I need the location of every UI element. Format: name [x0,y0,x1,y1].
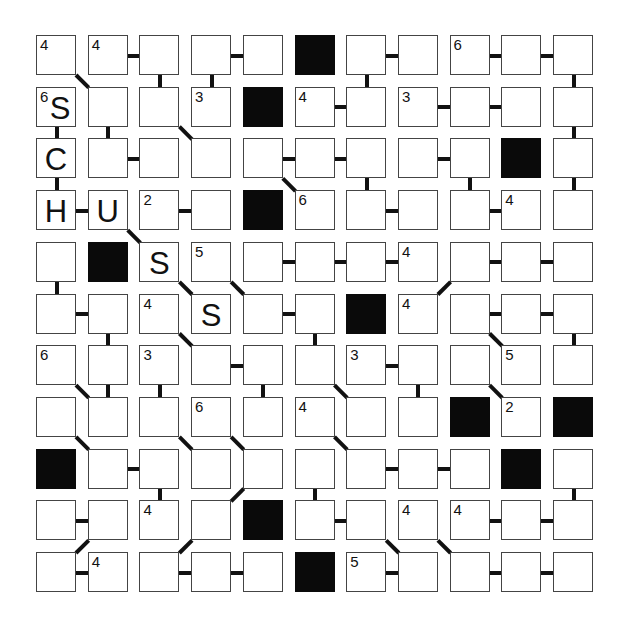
grid-cell[interactable] [191,138,231,178]
grid-cell[interactable] [450,190,490,230]
grid-cell[interactable] [346,242,386,282]
grid-cell[interactable] [139,138,179,178]
grid-cell[interactable] [553,242,593,282]
grid-cell[interactable]: C [36,138,76,178]
grid-cell[interactable] [346,138,386,178]
grid-cell[interactable] [398,190,438,230]
grid-cell[interactable] [191,190,231,230]
grid-cell[interactable]: 4 [398,500,438,540]
grid-cell[interactable]: 4 [398,294,438,334]
grid-cell[interactable] [243,449,283,489]
grid-cell[interactable]: 6S [36,87,76,127]
grid-cell[interactable] [501,294,541,334]
grid-cell[interactable] [346,397,386,437]
grid-cell[interactable] [398,138,438,178]
grid-cell[interactable] [88,87,128,127]
grid-cell[interactable] [36,397,76,437]
grid-cell[interactable] [88,449,128,489]
grid-cell[interactable] [398,345,438,385]
grid-cell[interactable]: H [36,190,76,230]
grid-cell[interactable] [346,190,386,230]
grid-cell[interactable]: 4 [36,35,76,75]
grid-cell[interactable] [191,552,231,592]
grid-cell[interactable] [501,242,541,282]
grid-cell[interactable]: 5 [191,242,231,282]
grid-cell[interactable] [139,35,179,75]
grid-cell[interactable] [295,242,335,282]
grid-cell[interactable] [88,397,128,437]
grid-cell[interactable] [450,87,490,127]
grid-cell[interactable] [243,397,283,437]
grid-cell[interactable] [398,397,438,437]
grid-cell[interactable]: 3 [139,345,179,385]
grid-cell[interactable] [139,552,179,592]
grid-cell[interactable] [295,138,335,178]
grid-cell[interactable] [191,35,231,75]
grid-cell[interactable]: 4 [398,242,438,282]
grid-cell[interactable] [553,449,593,489]
grid-cell[interactable] [501,500,541,540]
grid-cell[interactable] [450,552,490,592]
grid-cell[interactable] [346,35,386,75]
grid-cell[interactable] [88,294,128,334]
grid-cell[interactable] [398,449,438,489]
grid-cell[interactable] [553,35,593,75]
grid-cell[interactable] [553,345,593,385]
grid-cell[interactable]: 4 [139,294,179,334]
grid-cell[interactable] [36,500,76,540]
grid-cell[interactable]: U [88,190,128,230]
grid-cell[interactable] [36,242,76,282]
grid-cell[interactable] [450,449,490,489]
grid-cell[interactable] [243,552,283,592]
grid-cell[interactable]: 3 [398,87,438,127]
grid-cell[interactable]: 4 [295,397,335,437]
grid-cell[interactable]: 4 [295,87,335,127]
grid-cell[interactable] [139,87,179,127]
grid-cell[interactable] [243,35,283,75]
grid-cell[interactable] [295,345,335,385]
grid-cell[interactable]: 4 [88,35,128,75]
grid-cell[interactable] [553,500,593,540]
grid-cell[interactable] [553,190,593,230]
grid-cell[interactable] [243,138,283,178]
grid-cell[interactable] [398,35,438,75]
grid-cell[interactable] [450,138,490,178]
grid-cell[interactable] [88,500,128,540]
grid-cell[interactable] [295,500,335,540]
grid-cell[interactable]: 4 [450,500,490,540]
grid-cell[interactable]: S [191,294,231,334]
grid-cell[interactable] [191,345,231,385]
grid-cell[interactable] [243,345,283,385]
grid-cell[interactable]: 6 [36,345,76,385]
grid-cell[interactable]: 2 [139,190,179,230]
grid-cell[interactable] [346,87,386,127]
grid-cell[interactable] [243,242,283,282]
grid-cell[interactable] [295,449,335,489]
grid-cell[interactable] [501,552,541,592]
grid-cell[interactable] [346,449,386,489]
grid-cell[interactable]: 6 [191,397,231,437]
grid-cell[interactable]: 5 [501,345,541,385]
grid-cell[interactable] [501,87,541,127]
grid-cell[interactable]: 5 [346,552,386,592]
grid-cell[interactable] [139,397,179,437]
grid-cell[interactable]: 3 [346,345,386,385]
grid-cell[interactable]: 3 [191,87,231,127]
grid-cell[interactable] [243,294,283,334]
grid-cell[interactable] [295,294,335,334]
grid-cell[interactable] [398,552,438,592]
grid-cell[interactable] [553,294,593,334]
grid-cell[interactable]: 6 [295,190,335,230]
grid-cell[interactable] [450,294,490,334]
grid-cell[interactable]: 2 [501,397,541,437]
grid-cell[interactable] [450,345,490,385]
grid-cell[interactable]: S [139,242,179,282]
grid-cell[interactable] [139,449,179,489]
grid-cell[interactable] [553,552,593,592]
grid-cell[interactable] [88,138,128,178]
grid-cell[interactable] [36,552,76,592]
grid-cell[interactable]: 4 [139,500,179,540]
grid-cell[interactable] [450,242,490,282]
grid-cell[interactable]: 6 [450,35,490,75]
grid-cell[interactable]: 4 [88,552,128,592]
